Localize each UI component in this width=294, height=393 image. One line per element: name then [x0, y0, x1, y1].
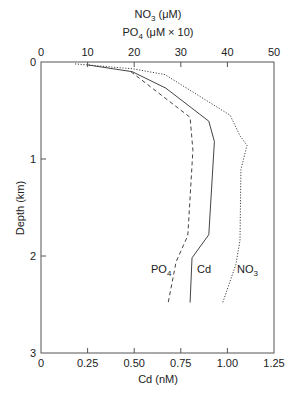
x-axis-label: Cd (nM) [138, 373, 178, 385]
top-axis-title-po4: PO4 (μM × 10) [122, 26, 193, 41]
top-tick-label: 0 [38, 46, 44, 58]
left-axis-ticks: 0123 [30, 56, 46, 359]
top-tick-label: 20 [128, 46, 140, 58]
left-tick-label: 0 [30, 56, 36, 68]
bottom-axis-ticks: 00.250.500.751.001.25 [38, 348, 285, 369]
depth-profile-chart: NO3 (μM) PO4 (μM × 10) 01020304050 00.25… [0, 0, 294, 393]
series-label-po4: PO4 [151, 263, 172, 278]
top-tick-label: 40 [221, 46, 233, 58]
left-tick-label: 1 [30, 153, 36, 165]
bottom-tick-label: 0 [38, 357, 44, 369]
y-axis-label: Depth (km) [14, 181, 26, 235]
bottom-tick-label: 1.25 [263, 357, 284, 369]
top-tick-label: 30 [175, 46, 187, 58]
left-tick-label: 2 [30, 250, 36, 262]
bottom-tick-label: 0.50 [123, 357, 144, 369]
bottom-tick-label: 1.00 [217, 357, 238, 369]
top-tick-label: 50 [268, 46, 280, 58]
chart-svg: NO3 (μM) PO4 (μM × 10) 01020304050 00.25… [0, 0, 294, 393]
plot-frame [41, 62, 274, 353]
left-tick-label: 3 [30, 347, 36, 359]
series-label-cd: Cd [197, 263, 211, 275]
top-axis-ticks: 01020304050 [38, 46, 280, 67]
bottom-tick-label: 0.75 [170, 357, 191, 369]
top-axis-title-no3: NO3 (μM) [135, 8, 182, 23]
series-label-no3: NO3 [237, 263, 259, 278]
bottom-tick-label: 0.25 [77, 357, 98, 369]
top-tick-label: 10 [81, 46, 93, 58]
